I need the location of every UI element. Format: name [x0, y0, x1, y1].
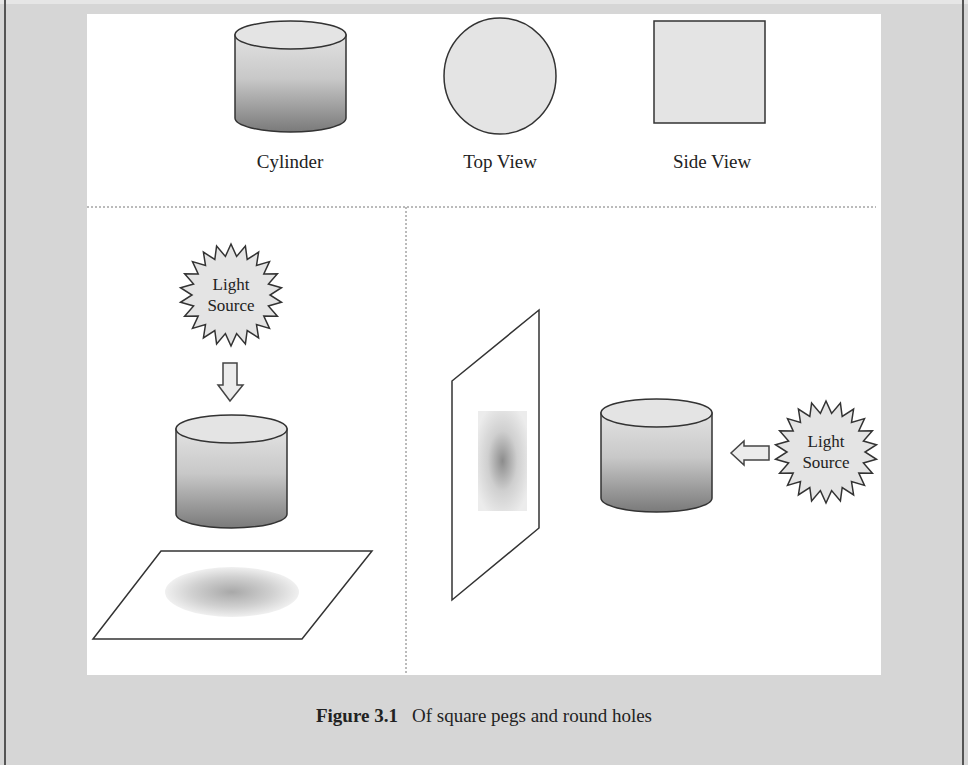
- cylinder-label: Cylinder: [257, 151, 324, 173]
- light-label-line1: Light: [786, 431, 866, 452]
- top-view-circle-icon: [444, 18, 556, 134]
- figure-caption-text: Of square pegs and round holes: [412, 705, 652, 726]
- left-arrow-icon: [731, 441, 769, 465]
- cylinder-icon: [235, 21, 346, 132]
- down-arrow-icon: [218, 363, 243, 401]
- rectangular-shadow: [478, 411, 527, 511]
- side-lit-cylinder-icon: [601, 399, 712, 512]
- right-light-source-label: Light Source: [786, 431, 866, 473]
- figure-number: Figure 3.1: [316, 705, 398, 726]
- circular-shadow: [165, 567, 299, 617]
- light-label-line1: Light: [191, 274, 271, 295]
- lit-cylinder-icon: [176, 415, 287, 528]
- top-view-label: Top View: [463, 151, 537, 173]
- light-label-line2: Source: [191, 295, 271, 316]
- light-label-line2: Source: [786, 452, 866, 473]
- left-light-source-label: Light Source: [191, 274, 271, 316]
- figure-drawing: [0, 0, 968, 765]
- figure-caption: Figure 3.1Of square pegs and round holes: [0, 705, 968, 727]
- side-view-label: Side View: [673, 151, 751, 173]
- side-view-square-icon: [654, 21, 765, 123]
